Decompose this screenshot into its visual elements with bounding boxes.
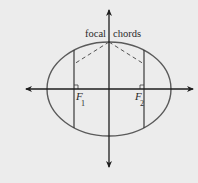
label-focal: focal — [85, 28, 106, 39]
dashed-line-right — [109, 42, 144, 64]
label-f2-subscript: 2 — [140, 99, 144, 108]
label-f1-subscript: 1 — [81, 99, 85, 108]
ellipse-diagram: focal chords F 1 F 2 — [0, 0, 198, 183]
dashed-line-left — [74, 42, 109, 64]
label-chords: chords — [113, 28, 141, 39]
diagram-svg: focal chords F 1 F 2 — [0, 0, 198, 183]
